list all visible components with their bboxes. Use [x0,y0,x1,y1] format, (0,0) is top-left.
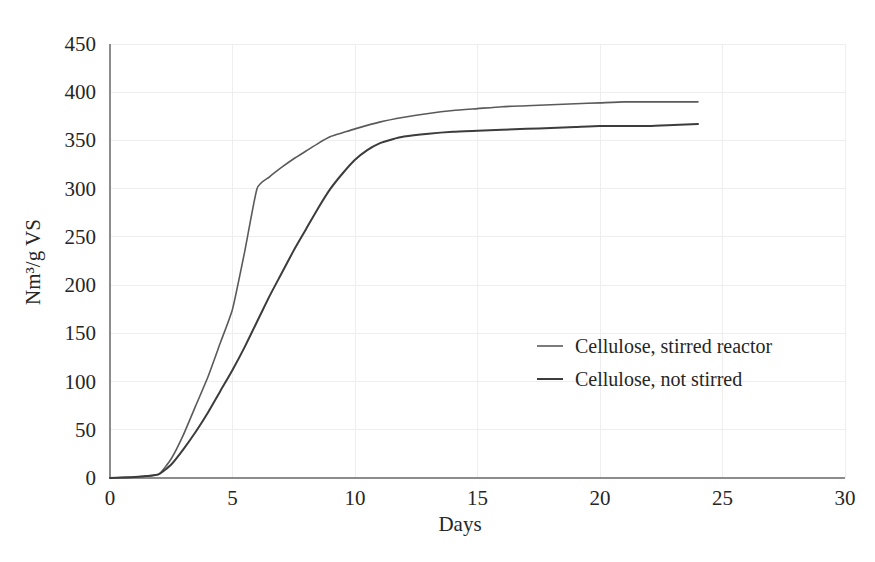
y-tick-label: 450 [65,32,97,56]
y-tick-labels-group: 050100150200250300350400450 [65,32,97,490]
x-tick-label: 5 [227,486,238,510]
series-line-2 [110,124,698,478]
y-tick-label: 0 [86,466,97,490]
y-tick-label: 400 [65,80,97,104]
y-tick-label: 200 [65,273,97,297]
line-chart: 050100150200250300350400450 051015202530… [0,0,875,562]
legend-label-2: Cellulose, not stirred [575,368,742,390]
y-tick-label: 150 [65,321,97,345]
y-tick-label: 250 [65,225,97,249]
y-tick-label: 100 [65,370,97,394]
x-tick-label: 15 [467,486,488,510]
x-tick-label: 25 [712,486,733,510]
chart-page: 050100150200250300350400450 051015202530… [0,0,875,562]
series-group [110,102,698,478]
y-axis-title: Nm³/g VS [21,219,45,305]
x-tick-label: 10 [345,486,366,510]
y-tick-label: 350 [65,128,97,152]
x-tick-label: 20 [590,486,611,510]
y-axis-title-text: Nm³/g VS [21,219,45,305]
legend-label-1: Cellulose, stirred reactor [575,335,772,357]
y-tick-label: 50 [75,418,96,442]
x-tick-labels-group: 051015202530 [105,486,856,510]
x-tick-label: 0 [105,486,116,510]
series-line-1 [110,102,698,478]
x-axis-title: Days [438,512,481,536]
y-tick-label: 300 [65,177,97,201]
x-tick-label: 30 [835,486,856,510]
